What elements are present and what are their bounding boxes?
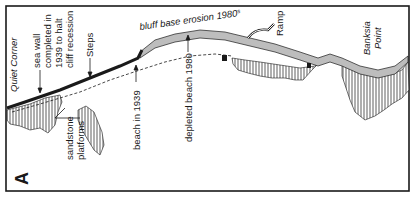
svg-text:Point: Point xyxy=(372,27,383,49)
svg-text:1939 to halt: 1939 to halt xyxy=(53,18,64,68)
svg-text:sea wall: sea wall xyxy=(31,34,42,68)
label-depleted-beach: depleted beach 1980 xyxy=(183,53,194,142)
svg-text:completed in: completed in xyxy=(42,14,53,68)
svg-text:Banksia: Banksia xyxy=(361,21,372,55)
label-steps: Steps xyxy=(84,32,95,57)
marker-2 xyxy=(307,63,311,68)
svg-text:cliff recession: cliff recession xyxy=(64,11,75,68)
label-quiet-corner: Quiet Corner xyxy=(8,37,19,92)
panel-label: A xyxy=(12,172,32,185)
label-beach-1939: beach in 1939 xyxy=(131,90,142,150)
svg-text:sandstone: sandstone xyxy=(64,116,75,160)
marker-1 xyxy=(222,55,227,61)
label-ramp: Ramp xyxy=(274,11,285,36)
svg-text:platforms: platforms xyxy=(75,121,86,160)
label-sandstone-platforms: sandstone platforms xyxy=(64,116,86,160)
coastal-erosion-map: Quiet Corner sea wall completed in 1939 … xyxy=(0,0,412,198)
